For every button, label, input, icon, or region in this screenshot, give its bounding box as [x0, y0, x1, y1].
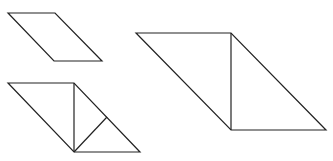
small-parallelogram-outline — [8, 13, 102, 61]
diagram-canvas — [0, 0, 333, 161]
small-parallelogram — [8, 13, 102, 61]
diagram-svg — [0, 0, 333, 161]
shapes-group — [8, 13, 326, 152]
large-parallelogram — [136, 33, 326, 130]
divided-parallelogram — [8, 83, 140, 152]
divided-parallelogram-divider-1 — [74, 117, 107, 152]
